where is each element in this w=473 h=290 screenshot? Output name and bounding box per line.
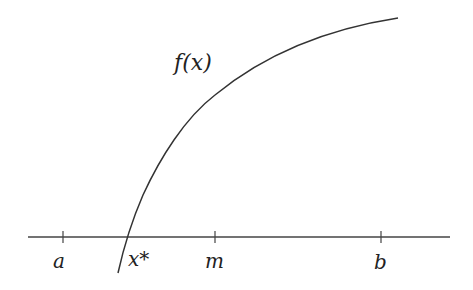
label-a: a xyxy=(53,249,65,273)
label-b: b xyxy=(374,250,387,274)
curve-label: f(x) xyxy=(172,50,212,75)
bisection-diagram: f(x) a x* m b xyxy=(0,0,473,290)
label-m: m xyxy=(205,249,224,273)
function-curve xyxy=(118,18,398,273)
label-root: x* xyxy=(128,247,149,271)
